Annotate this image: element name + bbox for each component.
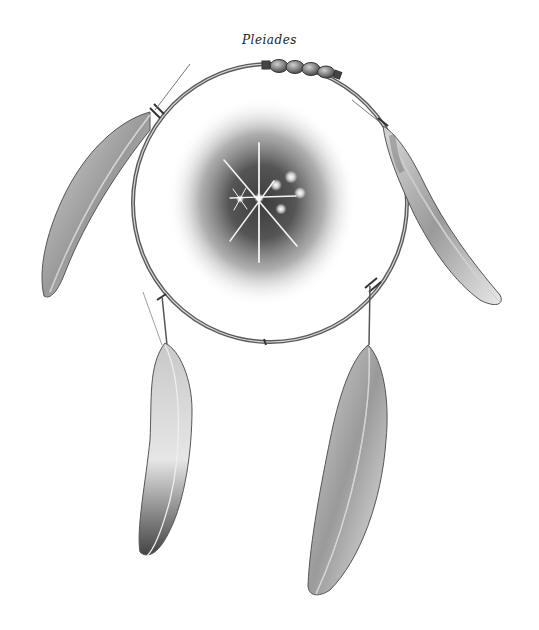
cluster-star-icon (285, 171, 298, 184)
cluster-star-icon (276, 204, 287, 215)
beads (262, 60, 342, 80)
cluster-star-icon (270, 179, 282, 191)
feather-upper-right (352, 100, 501, 305)
dreamcatcher-illustration (0, 0, 539, 630)
small-star-icon (236, 195, 244, 203)
feather-upper-left (42, 64, 190, 297)
cluster-star-icon (294, 187, 306, 199)
feather-lower-left (139, 292, 192, 556)
central-star-icon (254, 193, 264, 203)
